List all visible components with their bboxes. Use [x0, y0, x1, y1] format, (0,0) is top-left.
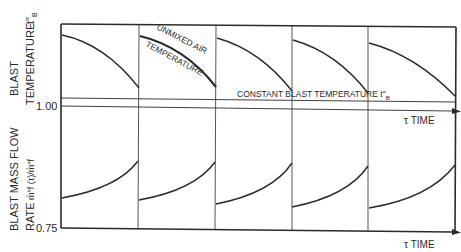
bottom-xaxis-label: τ TIME: [404, 239, 435, 250]
top-tick-label: 1.00: [36, 100, 57, 112]
blast-temperature-flow-diagram: BLAST TEMPERATURE t″B 1.00 UNMIXED AIR T…: [0, 0, 461, 252]
bottom-time-arrow-icon: [452, 229, 461, 235]
right-border: [455, 27, 456, 232]
top-ylabel-line1: BLAST: [8, 61, 20, 96]
top-ylabel-line2: TEMPERATURE: [24, 23, 36, 105]
top-ylabel-symbol: t″B: [24, 12, 38, 24]
temperature-curve: [217, 38, 292, 91]
mass-flow-curve: [139, 162, 215, 200]
constant-line-label: CONSTANT BLAST TEMPERATURE t″B: [237, 89, 390, 101]
bottom-tick-label: 0.75: [36, 222, 57, 234]
mass-flow-curve: [216, 163, 292, 204]
bottom-ylabel-formula: m̊″f (τ)/m̊″f: [26, 159, 36, 200]
top-time-axis: [61, 106, 452, 111]
top-xaxis-label: τ TIME: [404, 115, 435, 126]
cycle-divider: [138, 25, 139, 229]
cycle-divider: [215, 26, 216, 230]
mass-flow-curve: [62, 161, 138, 198]
bottom-ylabel-line2: RATE: [24, 202, 36, 231]
top-border: [61, 24, 456, 27]
temperature-curve: [62, 35, 139, 88]
temperature-curve: [293, 40, 368, 93]
top-time-arrow-icon: [452, 108, 461, 114]
mass-flow-curve: [369, 165, 455, 208]
bottom-time-axis: [61, 228, 452, 232]
bottom-ylabel-line1: BLAST MASS FLOW: [8, 127, 20, 231]
mass-flow-curve: [292, 166, 368, 207]
